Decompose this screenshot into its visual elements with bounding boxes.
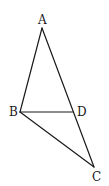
point-label-b: B — [9, 105, 18, 119]
point-label-d: D — [77, 105, 87, 119]
point-label-c: C — [92, 170, 101, 184]
segment-AC — [42, 28, 94, 167]
triangle-diagram: A B D C — [0, 0, 109, 186]
point-label-a: A — [37, 13, 47, 27]
segment-AB — [20, 28, 42, 112]
segment-BC — [20, 112, 94, 167]
